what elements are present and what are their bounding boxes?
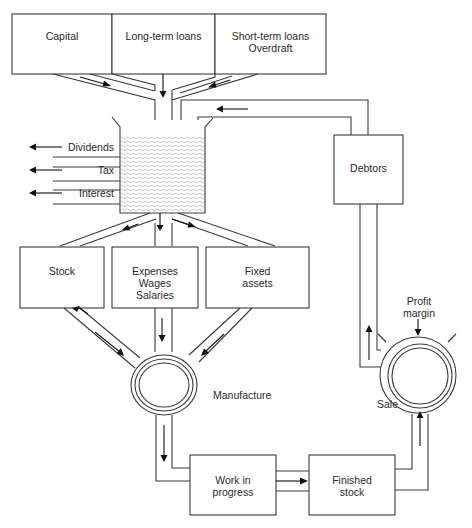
short-term-loans-label: Short-term loans Overdraft <box>215 30 326 54</box>
expenses-label: Expenses Wages Salaries <box>112 265 198 301</box>
capital-label: Capital <box>12 30 112 42</box>
capital-box <box>12 14 112 74</box>
flow-diagram <box>0 0 472 528</box>
manufacture-channels <box>64 306 252 368</box>
sale-channel <box>395 411 428 490</box>
manufacture-label: Manufacture <box>213 389 271 401</box>
inflow-channels <box>53 74 258 120</box>
cash-pool <box>121 136 204 212</box>
profit-margin-label: Profit margin <box>394 295 444 319</box>
long-term-loans-label: Long-term loans <box>112 30 215 42</box>
stock-box <box>20 247 104 308</box>
stock-label: Stock <box>20 265 104 277</box>
debtors-label: Debtors <box>334 162 403 174</box>
finished-stock-label: Finished stock <box>309 474 395 498</box>
manufacture-process <box>131 355 197 415</box>
use-channels <box>60 213 275 246</box>
cash-reservoir <box>112 117 213 213</box>
dividends-label: Dividends <box>40 141 114 153</box>
fixed-assets-label: Fixed assets <box>206 265 309 289</box>
wip-channel <box>156 415 190 481</box>
debtors-return-channel <box>181 100 368 135</box>
work-in-progress-label: Work in progress <box>190 474 276 498</box>
interest-label: Interest <box>40 187 114 199</box>
long-term-loans-box <box>112 14 215 74</box>
tax-label: Tax <box>40 164 114 176</box>
sale-label: Sale <box>377 398 398 410</box>
